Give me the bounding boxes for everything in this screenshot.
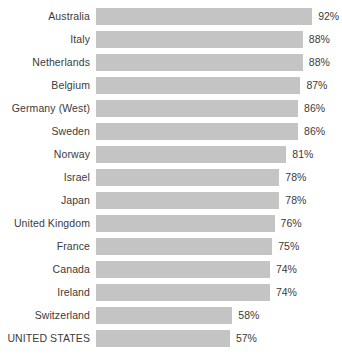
category-label: Japan [0,192,90,209]
value-label: 86% [304,100,325,117]
bar-area: 74% [96,284,342,301]
bar-row: Canada74% [0,261,342,278]
bar-area: 81% [96,146,342,163]
bar-row: Switzerland58% [0,307,342,324]
value-label: 78% [285,192,306,209]
bar-area: 88% [96,31,342,48]
value-label: 88% [309,54,330,71]
bar [96,31,303,48]
bar-area: 78% [96,169,342,186]
bar-row: United Kingdom76% [0,215,342,232]
category-label: Netherlands [0,54,90,71]
bar [96,307,232,324]
value-label: 74% [276,261,297,278]
value-label: 76% [281,215,302,232]
value-label: 74% [276,284,297,301]
category-label: Norway [0,146,90,163]
bar-row: Norway81% [0,146,342,163]
bar-area: 78% [96,192,342,209]
bar-area: 88% [96,54,342,71]
bar-area: 92% [96,8,342,25]
value-label: 86% [304,123,325,140]
bar [96,8,312,25]
category-label: Belgium [0,77,90,94]
bar-area: 86% [96,123,342,140]
category-label: Canada [0,261,90,278]
value-label: 92% [318,8,339,25]
category-label: Germany (West) [0,100,90,117]
bar [96,192,279,209]
bar [96,100,298,117]
category-label: Italy [0,31,90,48]
bar [96,123,298,140]
bar [96,330,230,347]
bar [96,238,272,255]
bar-row: Germany (West)86% [0,100,342,117]
bar-area: 87% [96,77,342,94]
category-label: UNITED STATES [0,330,90,347]
value-label: 88% [309,31,330,48]
bar-area: 75% [96,238,342,255]
bar-row: Netherlands88% [0,54,342,71]
bar [96,261,270,278]
bar [96,215,275,232]
bar-row: UNITED STATES57% [0,330,342,347]
category-label: France [0,238,90,255]
category-label: Israel [0,169,90,186]
value-label: 75% [278,238,299,255]
bar-area: 76% [96,215,342,232]
bar-row: Italy88% [0,31,342,48]
bar-row: Japan78% [0,192,342,209]
category-label: Switzerland [0,307,90,324]
bar-row: Sweden86% [0,123,342,140]
bar-area: 58% [96,307,342,324]
category-label: Sweden [0,123,90,140]
value-label: 81% [292,146,313,163]
bar-row: France75% [0,238,342,255]
bar [96,169,279,186]
bar-area: 57% [96,330,342,347]
bar-row: Australia92% [0,8,342,25]
bar-chart: Australia92%Italy88%Netherlands88%Belgiu… [0,0,342,363]
bar-row: Israel78% [0,169,342,186]
bar [96,146,286,163]
bar-area: 86% [96,100,342,117]
value-label: 58% [238,307,259,324]
value-label: 78% [285,169,306,186]
category-label: Australia [0,8,90,25]
category-label: Ireland [0,284,90,301]
bar-row: Ireland74% [0,284,342,301]
category-label: United Kingdom [0,215,90,232]
bar [96,77,300,94]
bar-area: 74% [96,261,342,278]
bar [96,284,270,301]
bar-row: Belgium87% [0,77,342,94]
bar [96,54,303,71]
value-label: 57% [236,330,257,347]
value-label: 87% [306,77,327,94]
